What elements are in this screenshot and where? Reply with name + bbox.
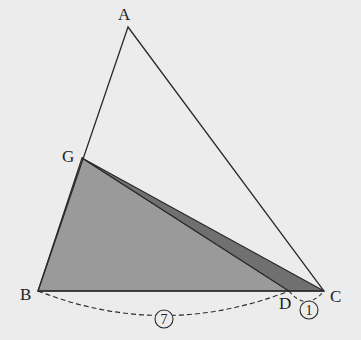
dashed-arc-dc (289, 291, 324, 302)
ratio-dc-label: 1 (306, 303, 313, 318)
shaded-triangle-gbd (38, 158, 289, 291)
triangle-diagram: 7 1 A B C D G (0, 0, 361, 340)
point-c-label: C (330, 287, 341, 306)
point-a-label: A (118, 5, 131, 24)
point-d-label: D (279, 294, 291, 313)
ratio-bd-label: 7 (161, 312, 168, 327)
point-b-label: B (20, 285, 31, 304)
point-g-label: G (62, 147, 74, 166)
